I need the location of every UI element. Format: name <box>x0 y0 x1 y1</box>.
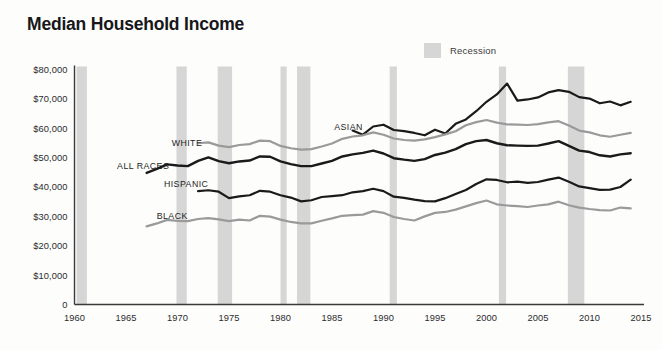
recession-band <box>499 67 506 305</box>
chart-container: Median Household Income Recession 0$10,0… <box>0 0 663 350</box>
y-axis-tick-label: $70,000 <box>33 94 67 104</box>
recession-band <box>297 67 310 305</box>
y-axis-tick-label: $40,000 <box>33 182 67 192</box>
x-axis-tick-label: 2000 <box>476 313 497 323</box>
x-axis-tick-label: 1995 <box>424 313 445 323</box>
y-axis-tick-label: $80,000 <box>33 65 67 75</box>
recession-band <box>218 67 232 305</box>
y-axis-tick-label: $10,000 <box>33 271 67 281</box>
series-label-hispanic: HISPANIC <box>164 179 209 189</box>
x-axis-tick-label: 1960 <box>64 313 85 323</box>
y-tick-labels-group: 0$10,000$20,000$30,000$40,000$50,000$60,… <box>33 65 67 310</box>
recession-band <box>281 67 287 305</box>
series-annotations-group: ASIANWHITEALL RACESHISPANICBLACK <box>117 122 363 221</box>
x-axis-tick-label: 2015 <box>630 313 651 323</box>
recession-bands-group <box>77 67 585 305</box>
series-label-black: BLACK <box>157 211 188 221</box>
x-axis-tick-label: 1985 <box>321 313 342 323</box>
recession-band <box>77 67 87 305</box>
y-axis-tick-label: $30,000 <box>33 212 67 222</box>
y-axis-tick-label: $60,000 <box>33 124 67 134</box>
y-axis-tick-label: 0 <box>62 300 67 310</box>
recession-band <box>390 67 397 305</box>
series-label-asian: ASIAN <box>334 122 363 132</box>
x-axis-tick-label: 1965 <box>115 313 136 323</box>
y-axis-tick-label: $50,000 <box>33 153 67 163</box>
x-axis-tick-label: 1980 <box>270 313 291 323</box>
x-axis-tick-label: 2010 <box>579 313 600 323</box>
x-axis-tick-label: 1970 <box>167 313 188 323</box>
series-label-white: WHITE <box>172 138 203 148</box>
series-label-all-races: ALL RACES <box>117 161 169 171</box>
x-tick-labels-group: 1960196519701975198019851990199520002005… <box>64 313 652 323</box>
x-axis-tick-label: 1990 <box>373 313 394 323</box>
axes-group <box>75 66 645 305</box>
line-chart-svg: 0$10,000$20,000$30,000$40,000$50,000$60,… <box>0 0 663 350</box>
series-line-hispanic <box>198 178 631 202</box>
x-axis-tick-label: 2005 <box>527 313 548 323</box>
y-axis-tick-label: $20,000 <box>33 241 67 251</box>
x-axis-tick-label: 1975 <box>218 313 239 323</box>
